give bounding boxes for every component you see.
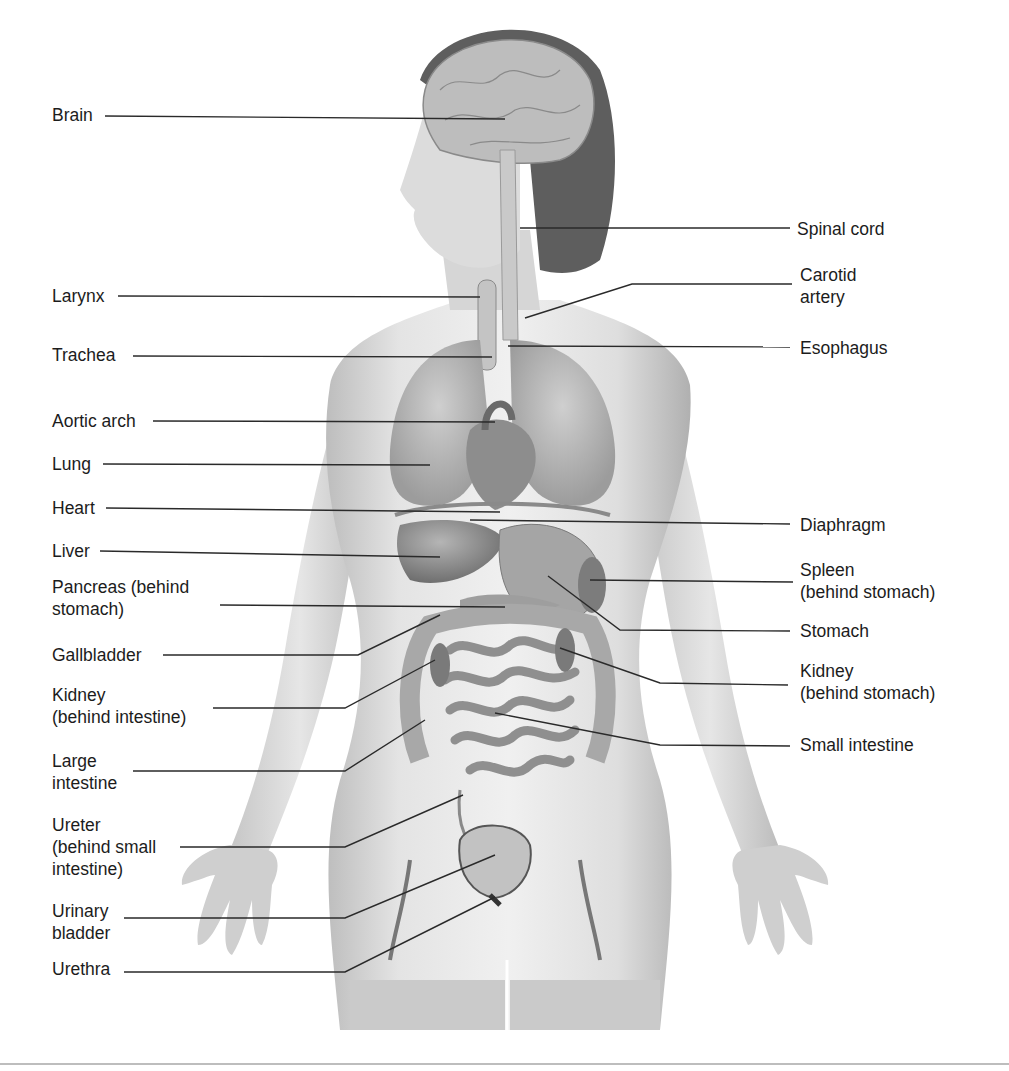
label-liver: Liver [52, 540, 90, 562]
spinal-cord-shape [500, 150, 518, 340]
label-esophagus: Esophagus [800, 337, 888, 359]
label-lung: Lung [52, 453, 91, 475]
label-urethra: Urethra [52, 958, 110, 980]
label-kidney-right: Kidney (behind stomach) [800, 660, 935, 704]
brain-shape [423, 40, 594, 164]
label-stomach: Stomach [800, 620, 869, 642]
label-carotid-artery: Carotid artery [800, 264, 856, 308]
label-ureter: Ureter (behind small intestine) [52, 814, 156, 880]
kidney-left-shape [430, 643, 450, 687]
label-heart: Heart [52, 497, 95, 519]
label-gallbladder: Gallbladder [52, 644, 142, 666]
label-pancreas: Pancreas (behind stomach) [52, 576, 189, 620]
label-aortic-arch: Aortic arch [52, 410, 136, 432]
label-brain: Brain [52, 104, 93, 126]
label-spleen: Spleen (behind stomach) [800, 559, 935, 603]
label-large-intestine: Large intestine [52, 750, 117, 794]
label-larynx: Larynx [52, 285, 105, 307]
spleen-shape [578, 557, 606, 613]
label-urinary-bladder: Urinary bladder [52, 900, 110, 944]
label-kidney-left: Kidney (behind intestine) [52, 684, 186, 728]
label-spinal-cord: Spinal cord [797, 218, 885, 240]
label-small-intestine: Small intestine [800, 734, 914, 756]
bottom-rule-divider [0, 1063, 1009, 1065]
leader-line-aortic-arch [153, 421, 495, 422]
label-trachea: Trachea [52, 344, 116, 366]
leader-line-trachea [133, 356, 492, 357]
label-diaphragm: Diaphragm [800, 514, 886, 536]
leader-line-larynx [118, 296, 480, 297]
